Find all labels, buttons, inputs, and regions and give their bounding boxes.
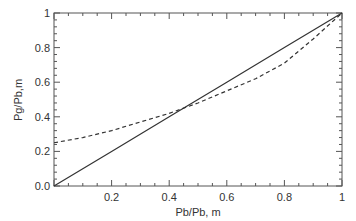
solid-series-line <box>54 13 342 186</box>
y-tick-label: 0.0 <box>35 180 50 192</box>
x-tick-label: 0.4 <box>162 191 177 203</box>
y-tick-label: 0.4 <box>35 111 50 123</box>
x-axis-label: Pb/Pb, m <box>175 206 220 218</box>
x-tick-label: 0.8 <box>277 191 292 203</box>
y-axis-label: Pg/Pb,m <box>12 79 24 121</box>
y-tick-label: 1 <box>44 7 50 19</box>
y-tick-label: 0.8 <box>35 42 50 54</box>
dashed-series-line <box>54 13 342 143</box>
x-tick-label: 1 <box>339 191 345 203</box>
x-tick-label: 0.6 <box>219 191 234 203</box>
line-chart: 0.20.40.60.810.00.20.40.60.81 Pb/Pb, m P… <box>0 0 356 221</box>
y-tick-label: 0.2 <box>35 145 50 157</box>
y-tick-label: 0.6 <box>35 76 50 88</box>
x-tick-label: 0.2 <box>104 191 119 203</box>
